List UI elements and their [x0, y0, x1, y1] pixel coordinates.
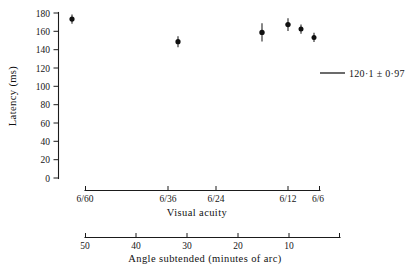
data-point	[285, 18, 290, 31]
data-point	[69, 15, 74, 24]
x-axis-acuity-title: Visual acuity	[167, 207, 228, 218]
chart-figure: 180 160 140 120 100 80 60 40 20 0 Latenc…	[0, 0, 414, 275]
data-point	[312, 33, 317, 42]
data-marker	[175, 39, 180, 44]
data-marker	[259, 30, 264, 35]
data-point	[175, 36, 180, 47]
y-tick-label-40: 40	[41, 137, 51, 147]
y-tick-label-80: 80	[41, 100, 51, 110]
data-point	[299, 25, 304, 34]
y-tick-label-0: 0	[45, 174, 50, 184]
x-tick-label-angle-10: 10	[284, 241, 294, 251]
x-axis-angle-subtended: 50 40 30 20 10 Angle subtended (minutes …	[80, 233, 340, 265]
x-tick-label-angle-30: 30	[182, 241, 192, 251]
x-tick-label-angle-20: 20	[233, 241, 243, 251]
data-point	[259, 23, 264, 41]
y-tick-label-100: 100	[36, 82, 51, 92]
data-marker	[312, 35, 317, 40]
x-axis-angle-title: Angle subtended (minutes of arc)	[128, 253, 281, 265]
y-tick-label-180: 180	[36, 9, 51, 19]
x-axis-visual-acuity: 6/60 6/36 6/24 6/12 6/6 Visual acuity	[77, 186, 325, 218]
y-axis-title: Latency (ms)	[7, 66, 19, 127]
legend: 120·1 ± 0·97	[320, 68, 405, 79]
chart-svg: 180 160 140 120 100 80 60 40 20 0 Latenc…	[0, 0, 414, 275]
y-tick-label-120: 120	[36, 64, 51, 74]
data-marker	[69, 17, 74, 22]
data-series	[69, 15, 316, 48]
y-axis: 180 160 140 120 100 80 60 40 20 0 Latenc…	[7, 9, 59, 184]
x-tick-label-6-36: 6/36	[160, 194, 177, 204]
y-tick-label-20: 20	[41, 155, 51, 165]
y-tick-label-160: 160	[36, 27, 51, 37]
y-tick-label-60: 60	[41, 119, 51, 129]
x-tick-label-angle-40: 40	[131, 241, 141, 251]
x-tick-label-6-12: 6/12	[280, 194, 297, 204]
x-tick-label-6-24: 6/24	[208, 194, 225, 204]
data-marker	[299, 27, 304, 32]
data-marker	[285, 22, 290, 27]
x-tick-label-angle-50: 50	[80, 241, 90, 251]
y-tick-label-140: 140	[36, 45, 51, 55]
legend-value-label: 120·1 ± 0·97	[349, 68, 405, 79]
x-tick-label-6-6: 6/6	[312, 194, 324, 204]
x-tick-label-6-60: 6/60	[77, 194, 94, 204]
